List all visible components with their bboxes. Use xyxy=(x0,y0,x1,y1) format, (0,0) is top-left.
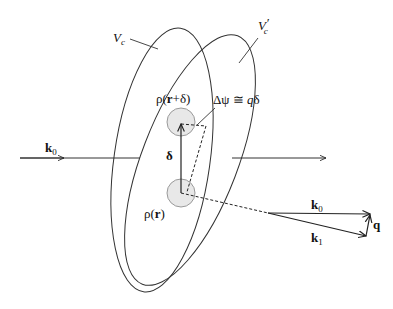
label-k0-incident: k0 xyxy=(45,140,57,157)
scattering-volume-vc xyxy=(96,22,228,299)
scattered-direction-dashed xyxy=(181,193,268,213)
wave-vector-triangle xyxy=(268,213,370,236)
label-k0-vector: k0 xyxy=(311,197,323,214)
label-vc: Vc xyxy=(113,30,125,47)
q-vector xyxy=(366,215,370,236)
label-rho-r-plus-delta: ρ(r+δ) xyxy=(156,91,190,106)
scattering-diagram: Vc V′c ρ(r+δ) Δψ ≅ qδ δ ρ(r) k0 k0 k1 q xyxy=(0,0,393,309)
vc-prime-leader-line xyxy=(239,38,258,63)
label-q-vector: q xyxy=(373,217,381,232)
label-k1-vector: k1 xyxy=(311,230,323,247)
label-rho-r: ρ(r) xyxy=(144,206,165,221)
scattering-volume-vc-prime xyxy=(98,19,283,302)
label-vc-prime: V′c xyxy=(258,15,269,36)
vc-leader-line xyxy=(130,39,158,49)
label-delta: δ xyxy=(166,148,173,163)
label-delta-psi: Δψ ≅ qδ xyxy=(213,92,260,107)
delta-psi-leader-line xyxy=(197,108,215,125)
